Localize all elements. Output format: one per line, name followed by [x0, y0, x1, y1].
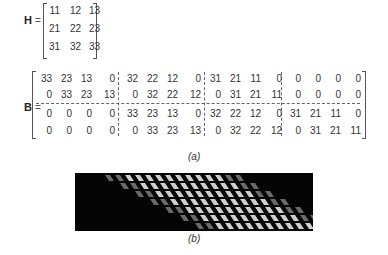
- matrix-h-cell: 22: [65, 23, 81, 34]
- matrix-b-cell: 0: [305, 73, 321, 84]
- matrix-b-cell: 22: [225, 108, 241, 119]
- matrix-b-cell: 21: [245, 89, 261, 100]
- matrix-b-cell: 32: [225, 125, 241, 136]
- matrix-b-cell: 0: [266, 73, 282, 84]
- matrix-b-cell: 11: [325, 108, 341, 119]
- matrix-b-cell: 33: [142, 125, 158, 136]
- matrix-b-cell: 13: [185, 125, 201, 136]
- matrix-b-cell: 0: [36, 89, 52, 100]
- matrix-b-cell: 13: [76, 73, 92, 84]
- matrix-b-cell: 31: [305, 125, 321, 136]
- matrix-b-cell: 0: [305, 89, 321, 100]
- matrix-b-cell: 32: [205, 108, 221, 119]
- matrix-b-cell: 0: [185, 108, 201, 119]
- matrix-h-cell: 23: [84, 23, 100, 34]
- caption-b: (b): [188, 233, 200, 244]
- matrix-b-cell: 0: [56, 108, 72, 119]
- matrix-b-cell: 12: [245, 108, 261, 119]
- matrix-b-cell: 22: [245, 125, 261, 136]
- matrix-b-cell: 11: [345, 125, 361, 136]
- matrix-b-cell: 0: [76, 125, 92, 136]
- matrix-b-cell: 0: [325, 89, 341, 100]
- matrix-b-cell: 0: [205, 125, 221, 136]
- matrix-b-cell: 0: [205, 89, 221, 100]
- matrix-b-label: B: [24, 101, 32, 113]
- matrix-h-cell: 11: [44, 5, 60, 16]
- matrix-b-cell: 23: [56, 73, 72, 84]
- matrix-h-cell: 33: [84, 41, 100, 52]
- matrix-b-cell: 31: [225, 89, 241, 100]
- matrix-b-cell: 11: [266, 89, 282, 100]
- matrix-b-cell: 31: [205, 73, 221, 84]
- matrix-b-cell: 0: [99, 108, 115, 119]
- matrix-h-cell: 32: [65, 41, 81, 52]
- matrix-b-cell: 0: [185, 73, 201, 84]
- matrix-b-cell: 33: [56, 89, 72, 100]
- matrix-h-cell: 12: [65, 5, 81, 16]
- matrix-b-cell: 22: [162, 89, 178, 100]
- matrix-b-cell: 12: [162, 73, 178, 84]
- matrix-b-cell: 0: [99, 125, 115, 136]
- matrix-b-cell: 0: [36, 125, 52, 136]
- matrix-b-cell: 0: [56, 125, 72, 136]
- caption-a: (a): [188, 151, 200, 162]
- matrix-b-cell: 0: [345, 89, 361, 100]
- matrix-b-cell: 0: [345, 73, 361, 84]
- matrix-b-cell: 32: [142, 89, 158, 100]
- matrix-b-cell: 23: [142, 108, 158, 119]
- matrix-b-cell: 0: [285, 125, 301, 136]
- block-separator-vertical: [118, 72, 119, 136]
- matrix-b-cell: 12: [185, 89, 201, 100]
- matrix-b-cell: 22: [142, 73, 158, 84]
- matrix-b-cell: 0: [76, 108, 92, 119]
- matrix-b-cell: 21: [225, 73, 241, 84]
- equals-sign: =: [35, 15, 41, 26]
- matrix-b-cell: 33: [122, 108, 138, 119]
- matrix-h-label: H: [24, 14, 32, 26]
- matrix-b-cell: 21: [305, 108, 321, 119]
- matrix-b-cell: 21: [325, 125, 341, 136]
- matrix-b-cell: 23: [162, 125, 178, 136]
- right-bracket: [362, 71, 366, 139]
- matrix-image-b: [75, 173, 313, 231]
- matrix-h-cell: 13: [84, 5, 100, 16]
- matrix-b-cell: 13: [99, 89, 115, 100]
- matrix-b-cell: 0: [345, 108, 361, 119]
- matrix-h-cell: 31: [44, 41, 60, 52]
- matrix-b-cell: 33: [36, 73, 52, 84]
- matrix-b-cell: 0: [285, 89, 301, 100]
- matrix-b-cell: 13: [162, 108, 178, 119]
- block-separator-horizontal: [36, 103, 360, 104]
- matrix-b-cell: 12: [266, 125, 282, 136]
- matrix-b-cell: 0: [36, 108, 52, 119]
- matrix-b-cell: 0: [285, 73, 301, 84]
- matrix-h-cell: 21: [44, 23, 60, 34]
- matrix-b-cell: 0: [122, 89, 138, 100]
- matrix-b-cell: 0: [122, 125, 138, 136]
- matrix-b-cell: 0: [266, 108, 282, 119]
- matrix-b-cell: 0: [325, 73, 341, 84]
- matrix-b-cell: 31: [285, 108, 301, 119]
- matrix-b-cell: 0: [99, 73, 115, 84]
- matrix-b-cell: 32: [122, 73, 138, 84]
- matrix-b-cell: 23: [76, 89, 92, 100]
- matrix-b-cell: 11: [245, 73, 261, 84]
